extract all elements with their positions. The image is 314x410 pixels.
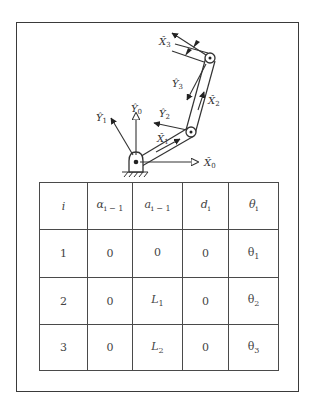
cell-a: 0 (133, 230, 183, 278)
y1-axis (111, 118, 133, 155)
link3-arrow-icon (193, 40, 200, 48)
cell-d: 0 (183, 325, 229, 371)
cell-alpha: 0 (88, 230, 133, 278)
ground-icon (122, 172, 148, 177)
y2-axis (154, 123, 187, 130)
header-alpha: αi − 1 (88, 183, 133, 230)
cell-alpha: 0 (88, 278, 133, 325)
x2-axis (198, 92, 204, 110)
cell-d: 0 (183, 230, 229, 278)
manipulator-diagram: X̂0 Ŷ0 Ŷ1 X̂1 Ŷ2 X̂2 Ŷ3 X̂3 (0, 0, 314, 182)
header-a: ai − 1 (133, 183, 183, 230)
cell-i: 2 (40, 278, 88, 325)
header-d: di (183, 183, 229, 230)
cell-a: L2 (133, 325, 183, 371)
cell-theta: θ3 (229, 325, 279, 371)
cell-alpha: 0 (88, 325, 133, 371)
header-theta: θi (229, 183, 279, 230)
cell-theta: θ1 (229, 230, 279, 278)
label-y1: Ŷ1 (96, 112, 107, 125)
label-y3: Ŷ3 (172, 78, 183, 91)
table-row: 3 0 L2 0 θ3 (40, 325, 279, 371)
label-x3: X̂3 (158, 36, 171, 49)
cell-theta: θ2 (229, 278, 279, 325)
label-x0: X̂0 (203, 157, 216, 170)
cell-a: L1 (133, 278, 183, 325)
label-y2: Ŷ2 (159, 108, 170, 121)
label-x2: X̂2 (207, 95, 220, 108)
table-row: 1 0 0 0 θ1 (40, 230, 279, 278)
cell-d: 0 (183, 278, 229, 325)
header-i: i (40, 183, 88, 230)
table-header-row: i αi − 1 ai − 1 di θi (40, 183, 279, 230)
table-row: 2 0 L1 0 θ2 (40, 278, 279, 325)
cell-i: 1 (40, 230, 88, 278)
cell-i: 3 (40, 325, 88, 371)
dh-parameter-table: i αi − 1 ai − 1 di θi 1 0 0 0 θ1 2 0 L1 … (39, 182, 279, 371)
